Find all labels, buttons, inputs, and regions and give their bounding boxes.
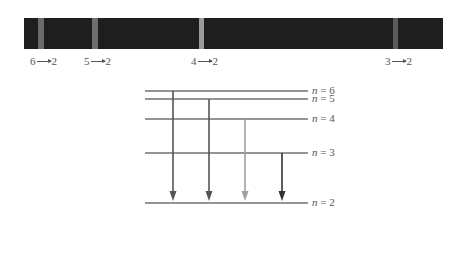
energy-level-diagram bbox=[0, 0, 462, 258]
level-label-n2: n = 2 bbox=[312, 197, 335, 208]
level-label-n5: n = 5 bbox=[312, 93, 335, 104]
transition-arrow-6-2 bbox=[170, 91, 177, 201]
level-label-n4: n = 4 bbox=[312, 113, 335, 124]
transition-arrow-3-2 bbox=[279, 153, 286, 201]
transition-arrow-5-2 bbox=[206, 99, 213, 201]
level-label-n3: n = 3 bbox=[312, 147, 335, 158]
transition-arrow-4-2 bbox=[242, 119, 249, 201]
